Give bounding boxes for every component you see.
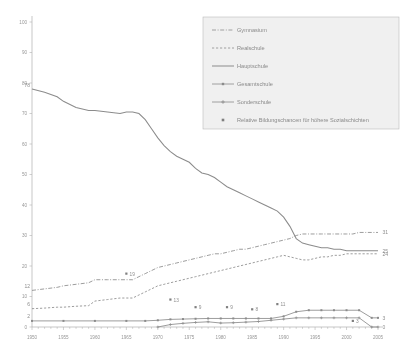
x-axis: 1950195519601965197019751980198519901995… — [27, 327, 384, 340]
y-axis-tick-label: 90 — [22, 50, 28, 55]
series-start-label: 12 — [24, 283, 30, 289]
data-point — [125, 320, 127, 322]
series-end-label: 0 — [383, 324, 386, 330]
x-axis-tick-label: 2000 — [341, 335, 352, 340]
legend-item-label: Gesamtschule — [237, 81, 273, 87]
legend-item-label: Gymnasium — [237, 27, 267, 33]
data-point — [320, 309, 322, 311]
data-point — [346, 309, 348, 311]
x-axis-tick-label: 1985 — [247, 335, 258, 340]
x-axis-tick-label: 1970 — [153, 335, 164, 340]
scatter-point-label: 11 — [281, 302, 286, 307]
data-point — [207, 320, 210, 323]
x-axis-tick-label: 1955 — [58, 335, 69, 340]
y-axis-tick-label: 30 — [22, 233, 28, 238]
data-point — [377, 326, 380, 329]
data-point — [308, 309, 310, 311]
data-point — [245, 317, 247, 319]
data-point — [157, 319, 159, 321]
scatter-point — [169, 298, 171, 300]
x-axis-tick-label: 1950 — [27, 335, 38, 340]
scatter-point — [226, 306, 228, 308]
scatter-point-label: 19 — [130, 272, 136, 277]
legend-box — [203, 17, 399, 129]
scatter-point-label: 9 — [199, 305, 202, 310]
legend-item-label: Hauptschule — [237, 63, 268, 69]
legend-marker-scatter — [222, 119, 225, 122]
y-axis-tick-label: 50 — [22, 172, 28, 177]
data-point — [182, 318, 184, 320]
data-point — [94, 320, 96, 322]
data-point — [358, 309, 360, 311]
series-realschule: 246 — [27, 251, 388, 309]
data-point — [371, 317, 373, 319]
x-axis-tick-label: 1975 — [184, 335, 195, 340]
y-axis-tick-label: 70 — [22, 111, 28, 116]
series-start-label: 2 — [27, 313, 30, 319]
series-gymnasium: 3112 — [24, 229, 388, 290]
series-start-label: 6 — [27, 301, 30, 307]
data-point — [257, 317, 259, 319]
data-point — [333, 316, 336, 319]
series-end-label: 25 — [383, 248, 389, 254]
data-point — [283, 315, 285, 317]
data-point — [282, 318, 285, 321]
scatter-point — [352, 320, 354, 322]
data-point — [169, 318, 171, 320]
legend: GymnasiumRealschuleHauptschuleGesamtschu… — [203, 17, 399, 129]
data-point — [219, 322, 222, 325]
scatter-point-label: 9 — [230, 305, 233, 310]
x-axis-tick-label: 1980 — [216, 335, 227, 340]
legend-item-label: Relative Bildungschancen für höhere Sozi… — [237, 117, 369, 123]
scatter-point-label: 3 — [356, 319, 359, 324]
data-point — [244, 321, 247, 324]
data-point — [333, 309, 335, 311]
data-point — [156, 326, 159, 329]
data-point — [194, 321, 197, 324]
line-chart: 0102030405060708090100195019551960196519… — [0, 0, 407, 362]
data-point — [62, 320, 64, 322]
scatter-point — [194, 306, 196, 308]
x-axis-tick-label: 1965 — [121, 335, 132, 340]
y-axis-tick-label: 10 — [22, 294, 28, 299]
data-point — [320, 316, 323, 319]
legend-item[interactable]: Relative Bildungschancen für höhere Sozi… — [222, 117, 369, 123]
y-axis-tick-label: 20 — [22, 264, 28, 269]
data-point — [207, 317, 209, 319]
data-point — [257, 320, 260, 323]
data-point — [232, 317, 234, 319]
legend-item-label: Sonderschule — [237, 99, 271, 105]
data-point — [31, 320, 33, 322]
series-start-label: 78 — [24, 82, 30, 88]
scatter-point — [276, 303, 278, 305]
data-point — [144, 320, 146, 322]
scatter-point-label: 13 — [174, 298, 180, 303]
data-point — [232, 321, 235, 324]
x-axis-tick-label: 1990 — [279, 335, 290, 340]
data-point — [295, 316, 298, 319]
series-end-label: 3 — [383, 315, 386, 321]
data-point — [345, 316, 348, 319]
scatter-relative-bildungschancen: 1913998113 — [125, 272, 359, 324]
scatter-point — [125, 273, 127, 275]
legend-marker-square — [222, 83, 224, 85]
data-point — [195, 318, 197, 320]
series-gesamtschule: 32 — [27, 309, 385, 322]
x-axis-tick-label: 1960 — [90, 335, 101, 340]
y-axis-tick-label: 100 — [19, 20, 27, 25]
x-axis-tick-label: 2005 — [373, 335, 384, 340]
scatter-point — [251, 308, 253, 310]
data-point — [295, 311, 297, 313]
data-point — [182, 322, 185, 325]
data-point — [169, 323, 172, 326]
legend-item-label: Realschule — [237, 45, 265, 51]
scatter-point-label: 8 — [255, 307, 258, 312]
data-point — [220, 317, 222, 319]
data-point — [307, 316, 310, 319]
x-axis-tick-label: 1995 — [310, 335, 321, 340]
y-axis-tick-label: 40 — [22, 203, 28, 208]
y-axis-tick-label: 60 — [22, 142, 28, 147]
series-end-label: 31 — [383, 229, 389, 235]
chart-container: 0102030405060708090100195019551960196519… — [0, 0, 407, 362]
data-point — [377, 317, 379, 319]
